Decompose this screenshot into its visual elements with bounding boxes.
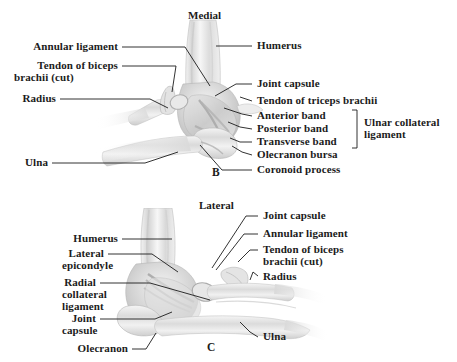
label-b-annular-ligament: Annular ligament — [0, 41, 118, 53]
label-c-radius: Radius — [263, 271, 297, 283]
label-b-tendon-biceps-line1: Tendon of biceps — [0, 60, 118, 72]
label-b-olecranon-bursa: Olecranon bursa — [257, 149, 338, 161]
label-b-tendon-triceps-brachii: Tendon of triceps brachii — [257, 95, 377, 107]
bracket-ulnar-collateral-ligament — [352, 110, 357, 148]
panel-letter-b: B — [212, 166, 220, 178]
label-c-joint-capsule-left-line2: capsule — [62, 325, 98, 337]
label-c-ulna: Ulna — [263, 331, 286, 343]
label-c-radial-collateral-ligament-line1: Radial — [0, 277, 96, 289]
label-b-anterior-band: Anterior band — [257, 110, 326, 122]
orientation-label-medial: Medial — [188, 9, 221, 21]
label-c-radial-collateral-ligament-line3: ligament — [62, 301, 104, 313]
label-b-tendon-biceps-line2: brachii (cut) — [14, 72, 74, 84]
label-c-olecranon: Olecranon — [0, 343, 128, 355]
label-c-joint-capsule-left-line1: Joint — [0, 313, 96, 325]
label-c-joint-capsule-right: Joint capsule — [263, 210, 326, 222]
label-c-humerus: Humerus — [0, 233, 118, 245]
label-c-tendon-biceps-line2: brachii (cut) — [263, 256, 323, 268]
label-c-lateral-epicondyle-line1: Lateral — [0, 248, 104, 260]
label-b-joint-capsule: Joint capsule — [257, 78, 320, 90]
label-b-ulnar-collateral-ligament-line2: ligament — [364, 129, 406, 141]
label-b-ulna: Ulna — [0, 157, 48, 169]
label-b-coronoid-process: Coronoid process — [257, 164, 340, 176]
label-c-lateral-epicondyle-line2: epicondyle — [62, 260, 113, 272]
label-b-ulnar-collateral-ligament-line1: Ulnar collateral — [364, 117, 440, 129]
label-c-radial-collateral-ligament-line2: collateral — [62, 289, 107, 301]
panel-letter-c: C — [207, 341, 215, 353]
label-b-humerus: Humerus — [257, 40, 302, 52]
label-b-radius: Radius — [0, 93, 56, 105]
orientation-label-lateral: Lateral — [199, 199, 234, 211]
label-c-annular-ligament: Annular ligament — [263, 228, 348, 240]
label-b-transverse-band: Transverse band — [257, 136, 337, 148]
anatomy-figure: Medial Annular ligament Tendon of biceps… — [0, 0, 457, 362]
label-b-posterior-band: Posterior band — [257, 123, 328, 135]
label-c-tendon-biceps-line1: Tendon of biceps — [263, 244, 344, 256]
